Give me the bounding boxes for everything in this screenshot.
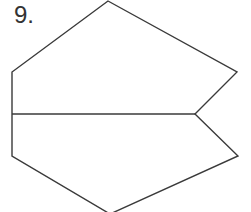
- figure-outline: [12, 1, 238, 212]
- hexagon-figure: [0, 0, 251, 212]
